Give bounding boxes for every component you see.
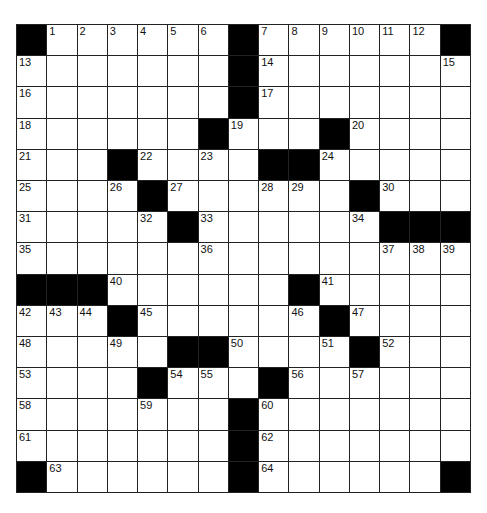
answer-cell[interactable]: [289, 431, 319, 462]
answer-cell[interactable]: [47, 87, 77, 118]
answer-cell[interactable]: [289, 337, 319, 368]
answer-cell[interactable]: 22: [138, 150, 168, 181]
answer-cell[interactable]: [320, 399, 350, 430]
answer-cell[interactable]: [441, 119, 471, 150]
answer-cell[interactable]: 62: [259, 431, 289, 462]
answer-cell[interactable]: 59: [138, 399, 168, 430]
answer-cell[interactable]: [138, 275, 168, 306]
answer-cell[interactable]: [108, 431, 138, 462]
answer-cell[interactable]: [47, 181, 77, 212]
answer-cell[interactable]: [78, 337, 108, 368]
answer-cell[interactable]: 20: [350, 119, 380, 150]
answer-cell[interactable]: 58: [17, 399, 47, 430]
answer-cell[interactable]: [47, 150, 77, 181]
answer-cell[interactable]: 45: [138, 306, 168, 337]
answer-cell[interactable]: [199, 275, 229, 306]
answer-cell[interactable]: 25: [17, 181, 47, 212]
answer-cell[interactable]: [47, 56, 77, 87]
answer-cell[interactable]: [350, 243, 380, 274]
answer-cell[interactable]: [380, 87, 410, 118]
answer-cell[interactable]: [259, 337, 289, 368]
answer-cell[interactable]: [350, 56, 380, 87]
answer-cell[interactable]: [47, 212, 77, 243]
answer-cell[interactable]: [229, 306, 259, 337]
answer-cell[interactable]: [78, 399, 108, 430]
answer-cell[interactable]: 7: [259, 25, 289, 56]
answer-cell[interactable]: 32: [138, 212, 168, 243]
answer-cell[interactable]: [138, 337, 168, 368]
answer-cell[interactable]: 28: [259, 181, 289, 212]
answer-cell[interactable]: [108, 119, 138, 150]
answer-cell[interactable]: [78, 87, 108, 118]
answer-cell[interactable]: 2: [78, 25, 108, 56]
answer-cell[interactable]: 31: [17, 212, 47, 243]
answer-cell[interactable]: [320, 181, 350, 212]
answer-cell[interactable]: [441, 399, 471, 430]
answer-cell[interactable]: 48: [17, 337, 47, 368]
answer-cell[interactable]: 21: [17, 150, 47, 181]
answer-cell[interactable]: [350, 150, 380, 181]
answer-cell[interactable]: [138, 56, 168, 87]
answer-cell[interactable]: 60: [259, 399, 289, 430]
answer-cell[interactable]: [138, 87, 168, 118]
answer-cell[interactable]: 29: [289, 181, 319, 212]
answer-cell[interactable]: 27: [168, 181, 198, 212]
answer-cell[interactable]: [229, 368, 259, 399]
answer-cell[interactable]: 30: [380, 181, 410, 212]
answer-cell[interactable]: [168, 431, 198, 462]
answer-cell[interactable]: [78, 243, 108, 274]
answer-cell[interactable]: [289, 399, 319, 430]
answer-cell[interactable]: [47, 337, 77, 368]
answer-cell[interactable]: 38: [410, 243, 440, 274]
answer-cell[interactable]: 5: [168, 25, 198, 56]
answer-cell[interactable]: 1: [47, 25, 77, 56]
answer-cell[interactable]: [47, 399, 77, 430]
answer-cell[interactable]: [289, 212, 319, 243]
answer-cell[interactable]: [441, 368, 471, 399]
answer-cell[interactable]: [410, 399, 440, 430]
answer-cell[interactable]: 13: [17, 56, 47, 87]
answer-cell[interactable]: [229, 181, 259, 212]
answer-cell[interactable]: 57: [350, 368, 380, 399]
answer-cell[interactable]: [320, 243, 350, 274]
answer-cell[interactable]: [410, 87, 440, 118]
answer-cell[interactable]: [199, 431, 229, 462]
answer-cell[interactable]: [199, 181, 229, 212]
answer-cell[interactable]: [229, 212, 259, 243]
answer-cell[interactable]: [168, 87, 198, 118]
answer-cell[interactable]: [199, 87, 229, 118]
answer-cell[interactable]: 41: [320, 275, 350, 306]
answer-cell[interactable]: [380, 462, 410, 493]
answer-cell[interactable]: [78, 119, 108, 150]
answer-cell[interactable]: [168, 243, 198, 274]
answer-cell[interactable]: [410, 275, 440, 306]
answer-cell[interactable]: [78, 431, 108, 462]
answer-cell[interactable]: 17: [259, 87, 289, 118]
answer-cell[interactable]: [78, 181, 108, 212]
answer-cell[interactable]: 6: [199, 25, 229, 56]
answer-cell[interactable]: 11: [380, 25, 410, 56]
answer-cell[interactable]: 53: [17, 368, 47, 399]
answer-cell[interactable]: [259, 119, 289, 150]
answer-cell[interactable]: 15: [441, 56, 471, 87]
answer-cell[interactable]: [78, 150, 108, 181]
answer-cell[interactable]: [320, 431, 350, 462]
answer-cell[interactable]: 50: [229, 337, 259, 368]
answer-cell[interactable]: 9: [320, 25, 350, 56]
answer-cell[interactable]: [138, 119, 168, 150]
answer-cell[interactable]: [380, 306, 410, 337]
answer-cell[interactable]: [320, 368, 350, 399]
answer-cell[interactable]: [199, 462, 229, 493]
answer-cell[interactable]: 34: [350, 212, 380, 243]
answer-cell[interactable]: [199, 399, 229, 430]
answer-cell[interactable]: [441, 275, 471, 306]
answer-cell[interactable]: [380, 150, 410, 181]
answer-cell[interactable]: [441, 150, 471, 181]
answer-cell[interactable]: [410, 56, 440, 87]
answer-cell[interactable]: [441, 87, 471, 118]
answer-cell[interactable]: [380, 431, 410, 462]
answer-cell[interactable]: 54: [168, 368, 198, 399]
answer-cell[interactable]: 8: [289, 25, 319, 56]
answer-cell[interactable]: 24: [320, 150, 350, 181]
answer-cell[interactable]: [229, 150, 259, 181]
